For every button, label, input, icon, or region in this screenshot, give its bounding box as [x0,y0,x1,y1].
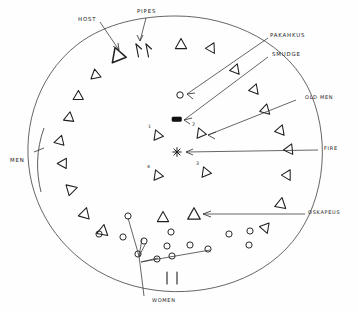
table-row[interactable] [205,43,214,54]
arrow-icon [100,22,119,50]
list-item [187,242,193,248]
pipe-marker[interactable] [136,44,142,57]
doorway-marker[interactable] [167,272,177,284]
list-item [168,229,174,235]
label-women: WOMEN [152,297,176,303]
label-oskapeus: OSKAPEUS [308,209,340,215]
seat-old-man-1[interactable] [154,130,164,141]
table-row[interactable] [97,224,110,236]
lodge-diagram-canvas: HOST PIPES PAKAHKUS SMUDGE OLD MEN FIRE … [0,0,358,312]
seat-old-man-2[interactable] [197,128,207,139]
label-pakahkus: PAKAHKUS [270,32,305,38]
table-row[interactable] [175,38,186,48]
arrow-icon [186,150,318,152]
table-row[interactable] [66,182,79,196]
label-fire: FIRE [324,145,338,151]
seat-number-1: 1 [148,124,151,129]
table-row[interactable] [274,125,284,137]
arrow-icon [187,93,195,99]
diagram-vector-layer [0,0,358,312]
label-men: MEN [10,157,25,163]
arrow-icon [137,35,143,41]
table-row[interactable] [229,64,239,76]
table-row[interactable] [91,69,103,82]
smudge-marker[interactable] [172,117,182,121]
seat-old-man-4[interactable] [154,170,164,181]
seat-number-4: 4 [147,164,150,169]
leader-line-group [100,18,318,296]
table-row[interactable] [281,170,290,181]
table-row[interactable] [157,211,168,221]
list-item [164,243,170,249]
seat-number-3: 3 [196,161,199,166]
label-smudge: SMUDGE [272,51,301,57]
table-row[interactable] [57,158,71,171]
table-row[interactable] [283,144,293,155]
table-row[interactable] [258,221,269,233]
label-host: HOST [78,16,96,22]
table-row[interactable] [78,206,92,219]
arrow-icon [128,218,139,256]
pakahkus-marker[interactable] [177,92,183,98]
men-bracket [34,128,44,192]
seat-number-2: 2 [192,122,195,127]
arrow-icon [184,57,268,120]
seat-old-man-3[interactable] [202,167,212,178]
table-row[interactable] [64,112,78,126]
label-pipes: PIPES [137,8,156,14]
old-men-seat-group [154,128,212,181]
label-old-men: OLD MEN [305,94,333,100]
list-item [205,246,211,252]
seat-oskapeus[interactable] [188,208,201,219]
pipe-marker[interactable] [146,44,152,57]
arrow-icon [208,132,216,139]
list-item [120,234,126,240]
list-item [226,231,232,237]
table-row[interactable] [73,90,86,104]
arrow-icon [140,18,146,41]
arrow-icon [141,250,210,262]
perimeter-seat-group [54,38,293,235]
seat-host[interactable] [112,47,127,64]
fire-marker[interactable] [172,147,181,157]
list-item [246,242,252,248]
list-item [247,228,253,234]
pipe-marker-group [136,44,152,57]
table-row[interactable] [275,197,288,209]
women-circle-group [96,213,253,262]
table-row[interactable] [54,135,68,149]
table-row[interactable] [248,84,258,96]
